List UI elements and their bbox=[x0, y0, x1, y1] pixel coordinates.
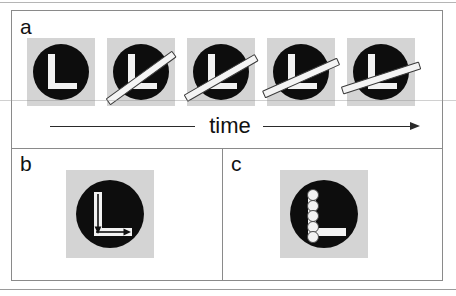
panel-divider-vertical bbox=[222, 148, 223, 281]
bead-5 bbox=[307, 231, 319, 243]
panel-label-b: b bbox=[20, 153, 32, 174]
panel-label-a: a bbox=[20, 16, 32, 37]
time-axis-line-right bbox=[263, 126, 415, 127]
panel-a-frame-3 bbox=[187, 38, 255, 106]
panel-divider-horizontal bbox=[11, 148, 443, 149]
figure-root: a time b c bbox=[0, 0, 456, 296]
time-axis-label: time bbox=[201, 113, 259, 139]
panel-c-stimulus-tile bbox=[280, 170, 368, 258]
panel-a-frame-5 bbox=[347, 38, 415, 106]
frame-l-shape bbox=[48, 54, 77, 89]
panel-label-c: c bbox=[231, 153, 242, 174]
panel-b-motion-arrows bbox=[66, 170, 154, 258]
panel-b-stimulus-tile bbox=[66, 170, 154, 258]
bottom-page-rule bbox=[0, 289, 456, 290]
panel-a-frame-2 bbox=[107, 38, 175, 106]
panel-a-frame-1 bbox=[27, 38, 95, 106]
panel-a-frame-4 bbox=[267, 38, 335, 106]
time-arrow-head-icon bbox=[410, 122, 420, 130]
time-axis-line-left bbox=[50, 126, 195, 127]
time-axis: time bbox=[18, 110, 436, 142]
top-page-rule bbox=[0, 2, 456, 3]
